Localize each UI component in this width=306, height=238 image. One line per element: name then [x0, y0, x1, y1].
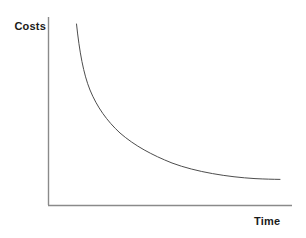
x-axis-label: Time — [254, 215, 292, 227]
costs-vs-time-chart — [0, 0, 306, 238]
chart-background — [0, 0, 306, 238]
y-axis-label: Costs — [10, 20, 46, 32]
chart-screenshot: Costs Time — [0, 0, 306, 238]
